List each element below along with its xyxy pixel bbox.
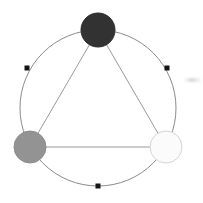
graph-figure [0, 0, 203, 203]
outer-circle [20, 30, 176, 186]
diagram-canvas [0, 0, 203, 203]
node-left[interactable] [14, 131, 46, 163]
arc-marker-upper-left-icon[interactable] [25, 66, 30, 71]
arc-marker-bottom-icon[interactable] [96, 184, 101, 189]
node-top[interactable] [81, 13, 115, 47]
edge-top-left[interactable] [30, 30, 98, 147]
edge-top-right[interactable] [98, 30, 166, 147]
node-right[interactable] [150, 131, 182, 163]
arc-marker-upper-right-icon[interactable] [165, 66, 170, 71]
